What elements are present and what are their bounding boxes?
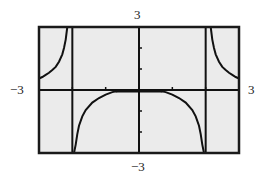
ymax-label: 3	[134, 8, 141, 21]
xmax-label: 3	[248, 83, 255, 96]
xmin-label: −3	[10, 83, 24, 96]
function-graph	[0, 0, 265, 182]
ymin-label: −3	[131, 160, 145, 173]
